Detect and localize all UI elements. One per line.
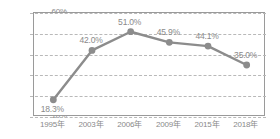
data-point-label: 35.0% xyxy=(234,51,257,60)
x-axis-tick-label: 2018年 xyxy=(233,120,258,129)
x-axis-tick-label: 2003年 xyxy=(79,120,104,129)
data-point-label: 18.3% xyxy=(41,105,64,114)
x-axis-tick-label: 2015年 xyxy=(195,120,220,129)
data-point-marker xyxy=(89,47,96,54)
data-point-marker xyxy=(205,43,212,50)
data-point-marker xyxy=(166,39,173,46)
x-axis-tick-label: 1995年 xyxy=(40,120,65,129)
x-axis-tick-label: 2006年 xyxy=(117,120,142,129)
gridline xyxy=(30,117,266,118)
data-point-label: 45.9% xyxy=(157,28,180,37)
data-point-marker xyxy=(127,28,134,35)
line-chart: 60% 50% 40% 30% 20% 10% 18.3% 42.0% 51.0… xyxy=(0,0,280,139)
data-point-label: 44.1% xyxy=(195,32,218,41)
data-point-label: 51.0% xyxy=(118,18,141,27)
data-point-marker xyxy=(50,96,57,103)
data-point-marker xyxy=(243,62,250,69)
series-line xyxy=(34,13,266,117)
data-point-label: 42.0% xyxy=(79,36,102,45)
plot-area xyxy=(33,12,265,116)
x-axis-tick-label: 2009年 xyxy=(156,120,181,129)
